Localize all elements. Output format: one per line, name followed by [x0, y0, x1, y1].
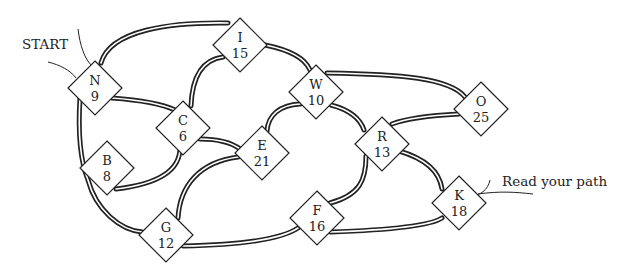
node-I-value: 15 — [232, 46, 249, 61]
node-I-letter: I — [237, 30, 242, 45]
node-K-value: 18 — [451, 204, 468, 219]
node-O-value: 25 — [473, 110, 490, 125]
end-label: Read your path — [502, 173, 607, 189]
start-marker: START — [22, 29, 92, 78]
edge-W-R — [331, 105, 364, 130]
start-label: START — [22, 36, 68, 52]
edge-N-C — [112, 98, 175, 110]
edge-R-O — [392, 114, 459, 124]
node-F-letter: F — [312, 203, 321, 218]
edges — [79, 23, 465, 246]
edge-F-K — [330, 218, 442, 232]
node-B-letter: B — [102, 153, 112, 168]
node-N-value: 9 — [91, 89, 99, 104]
edge-F-R — [330, 156, 366, 203]
edge-E-G — [178, 157, 238, 218]
nodes: N 9 I 15 C 6 W 10 E 21 O 25 — [68, 18, 508, 262]
node-W-letter: W — [309, 77, 323, 92]
node-O-letter: O — [476, 94, 487, 109]
node-G[interactable]: G 12 — [139, 208, 193, 262]
node-N-letter: N — [89, 73, 100, 88]
edge-N-I — [101, 23, 228, 63]
node-N[interactable]: N 9 — [68, 61, 122, 115]
path-diagram: START Read your path N 9 I 15 C 6 W 10 — [0, 0, 620, 276]
edge-I-C — [191, 57, 223, 106]
edge-C-E — [200, 139, 240, 149]
node-E[interactable]: E 21 — [235, 126, 289, 180]
node-F-value: 16 — [309, 219, 326, 234]
node-C-letter: C — [178, 113, 188, 128]
node-W-value: 10 — [308, 93, 325, 108]
node-G-letter: G — [161, 220, 171, 235]
edge-R-K — [399, 151, 442, 189]
node-G-value: 12 — [158, 236, 175, 251]
node-B-value: 8 — [103, 169, 111, 184]
node-C[interactable]: C 6 — [156, 101, 210, 155]
edge-W-E — [267, 104, 300, 131]
edge-G-F — [183, 228, 298, 246]
node-C-value: 6 — [179, 129, 187, 144]
edge-W-O — [327, 73, 465, 97]
node-E-value: 21 — [254, 154, 271, 169]
node-K-letter: K — [454, 188, 464, 203]
node-R-letter: R — [377, 129, 388, 144]
node-O[interactable]: O 25 — [454, 82, 508, 136]
node-R-value: 13 — [374, 145, 391, 160]
node-E-letter: E — [257, 138, 267, 153]
edge-I-W — [265, 45, 310, 70]
node-I[interactable]: I 15 — [213, 18, 267, 72]
end-marker: Read your path — [470, 173, 607, 196]
